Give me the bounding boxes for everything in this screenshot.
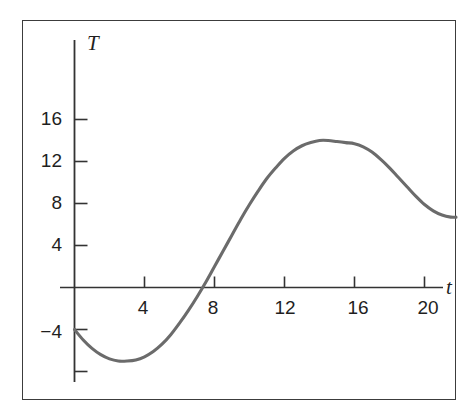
- y-tick-label-12: 12: [24, 151, 62, 170]
- y-tick-label-8: 8: [24, 193, 62, 212]
- x-axis-title: t: [446, 277, 452, 298]
- temperature-curve: [75, 140, 457, 361]
- chart-canvas: [0, 0, 471, 415]
- chart-figure: 16 12 8 4 −4 4 8 12 16 20 T t: [0, 0, 471, 415]
- y-tick-label-4: 4: [24, 235, 62, 254]
- y-tick-label-16: 16: [24, 109, 62, 128]
- x-tick-label-8: 8: [198, 298, 228, 317]
- x-tick-label-4: 4: [128, 298, 158, 317]
- x-tick-label-12: 12: [268, 298, 302, 317]
- x-tick-label-20: 20: [411, 298, 445, 317]
- y-axis-title: T: [87, 33, 99, 54]
- x-tick-label-16: 16: [341, 298, 375, 317]
- x-axis-tick-marks: [145, 277, 425, 288]
- y-tick-label-minus-4: −4: [18, 322, 62, 341]
